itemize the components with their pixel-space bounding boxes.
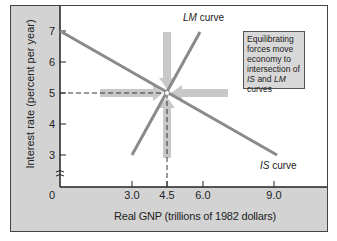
note-and: and <box>255 74 274 84</box>
is-label-text: curve <box>269 160 296 171</box>
x-tick-label: 4.5 <box>159 189 174 201</box>
note-is: IS <box>247 74 255 84</box>
lm-label-abbrev: LM <box>183 12 197 23</box>
x-tick-label: 3.0 <box>124 189 139 201</box>
y-tick-label: 7 <box>49 25 55 37</box>
x-axis-label: Real GNP (trillions of 1982 dollars) <box>70 210 320 222</box>
y-tick-labels: 7 6 5 4 3 0 <box>49 25 55 201</box>
y-tick-label: 6 <box>49 56 55 68</box>
x-tick-label: 6.0 <box>195 189 210 201</box>
y-tick-label: 5 <box>49 87 55 99</box>
origin-label: 0 <box>49 189 55 201</box>
y-axis-label: Interest rate (percent per year) <box>24 14 36 174</box>
note-text: Equilibrating forces move economy to int… <box>247 34 300 74</box>
lm-label-text: curve <box>197 12 224 23</box>
note-end: curves <box>247 84 272 94</box>
lm-curve-label: LM curve <box>183 12 224 23</box>
equilibrium-point <box>165 91 170 96</box>
note-lm: LM <box>274 74 286 84</box>
is-curve-label: IS curve <box>260 160 297 171</box>
annotation-box: Equilibrating forces move economy to int… <box>243 31 305 89</box>
y-tick-label: 4 <box>49 118 55 130</box>
x-tick-label: 9.0 <box>266 189 281 201</box>
y-tick-label: 3 <box>49 149 55 161</box>
x-tick-labels: 3.0 4.5 6.0 9.0 <box>124 189 281 201</box>
